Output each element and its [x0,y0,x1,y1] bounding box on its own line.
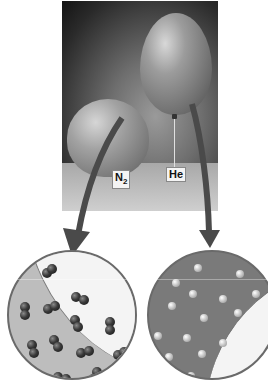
scan-line [0,279,268,280]
he-balloon-wall [205,267,268,380]
n2-label-subscript: 2 [123,177,127,186]
helium-balloon [140,13,212,115]
n2-label-text: N [115,171,123,183]
he-arrowhead-icon [199,230,220,248]
balloon-photo: N2 He [62,1,218,211]
n2-magnified-view [7,250,137,380]
nitrogen-balloon [67,99,149,177]
n2-balloon-wall [22,250,137,380]
he-magnified-view [147,250,268,380]
he-label: He [166,167,186,182]
n2-label: N2 [112,170,130,189]
